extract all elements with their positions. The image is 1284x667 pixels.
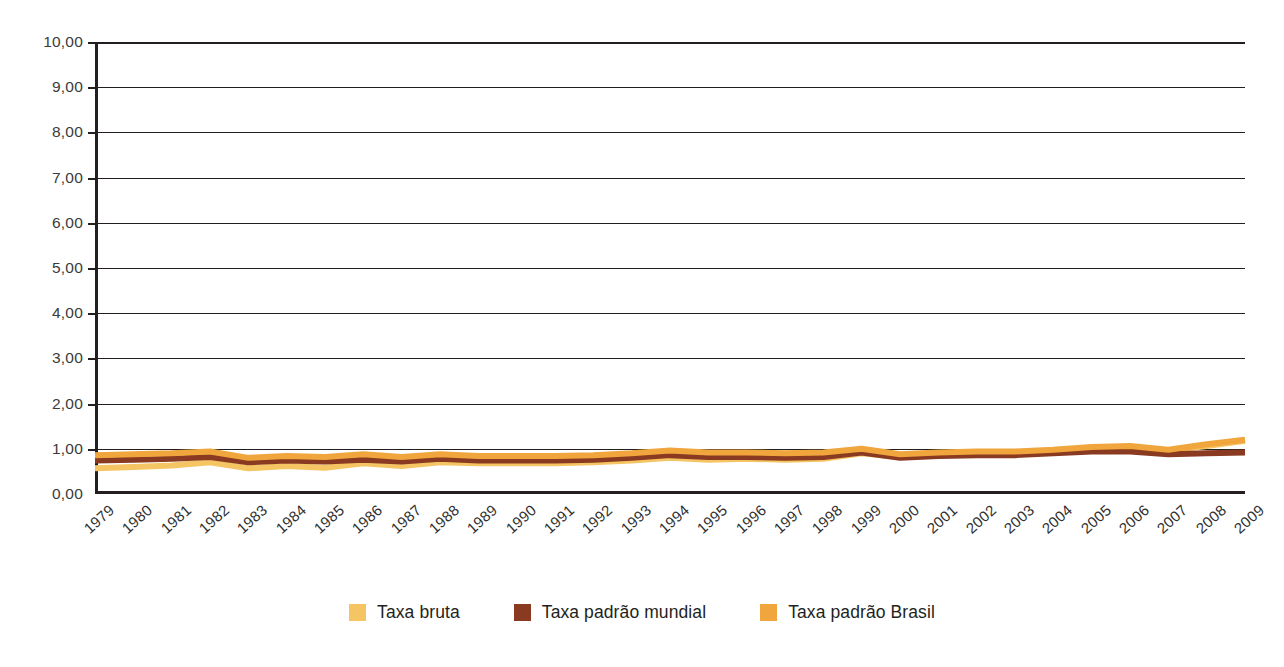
y-tick-5 [88,268,95,270]
x-axis-tick-label: 2001 [924,501,961,537]
x-axis-tick-label: 1991 [540,501,577,537]
y-axis-tick-label: 2,00 [5,395,83,413]
x-axis-tick-label: 1983 [234,501,271,537]
legend-item[interactable]: Taxa padrão mundial [514,602,706,623]
x-axis-tick-label: 2009 [1230,501,1267,537]
legend-item[interactable]: Taxa bruta [349,602,460,623]
x-axis-tick-label: 1984 [272,501,309,537]
x-axis-tick-label: 1993 [617,501,654,537]
x-axis-tick-label: 2004 [1039,501,1076,537]
y-axis-tick-label: 5,00 [5,259,83,277]
y-tick-2 [88,404,95,406]
y-tick-3 [88,358,95,360]
x-axis-tick-label: 2005 [1077,501,1114,537]
x-axis-tick-label: 1981 [157,501,194,537]
x-axis-tick-label: 1980 [119,501,156,537]
y-tick-8 [88,132,95,134]
line-chart: 10,009,008,007,006,005,004,003,002,001,0… [0,0,1284,667]
y-axis-tick-label: 0,00 [5,485,83,503]
y-tick-10 [88,42,95,44]
y-tick-9 [88,87,95,89]
x-axis-tick-label: 1992 [579,501,616,537]
legend-color-swatch [760,604,777,621]
y-axis-tick-label: 1,00 [5,440,83,458]
y-axis-tick-label: 4,00 [5,304,83,322]
legend-color-swatch [514,604,531,621]
x-axis-tick-label: 2002 [962,501,999,537]
x-axis-tick-label: 1996 [732,501,769,537]
x-axis-tick-label: 1990 [502,501,539,537]
y-axis-tick-label: 3,00 [5,349,83,367]
y-axis-tick-label: 9,00 [5,78,83,96]
chart-legend: Taxa brutaTaxa padrão mundialTaxa padrão… [0,602,1284,623]
x-axis-tick-label: 1987 [387,501,424,537]
legend-label: Taxa padrão Brasil [788,602,935,623]
y-axis-tick-label: 10,00 [5,33,83,51]
y-axis-tick-label: 8,00 [5,123,83,141]
y-axis-tick-label: 6,00 [5,214,83,232]
legend-label: Taxa bruta [377,602,460,623]
y-tick-4 [88,313,95,315]
x-axis-tick-label: 2003 [1000,501,1037,537]
legend-color-swatch [349,604,366,621]
x-axis-tick-label: 1994 [655,501,692,537]
x-axis-tick-label: 1988 [425,501,462,537]
x-axis-tick-label: 2006 [1115,501,1152,537]
x-axis-tick-label: 1999 [847,501,884,537]
x-axis-tick-label: 2000 [885,501,922,537]
y-tick-7 [88,178,95,180]
x-axis-labels: 1979198019811982198319841985198619871988… [95,497,1245,577]
legend-item[interactable]: Taxa padrão Brasil [760,602,935,623]
x-axis-tick-label: 1982 [195,501,232,537]
legend-label: Taxa padrão mundial [542,602,706,623]
y-axis-tick-label: 7,00 [5,169,83,187]
x-axis-tick-label: 2007 [1154,501,1191,537]
x-axis-tick-label: 1986 [349,501,386,537]
y-tick-1 [88,449,95,451]
data-series-layer [95,42,1245,494]
x-axis-tick-label: 1985 [310,501,347,537]
y-tick-6 [88,223,95,225]
x-axis-tick-label: 1997 [770,501,807,537]
x-axis-tick-label: 1995 [694,501,731,537]
x-axis-tick-label: 1989 [464,501,501,537]
x-axis-tick-label: 1979 [80,501,117,537]
x-axis-tick-label: 1998 [809,501,846,537]
x-axis-tick-label: 2008 [1192,501,1229,537]
